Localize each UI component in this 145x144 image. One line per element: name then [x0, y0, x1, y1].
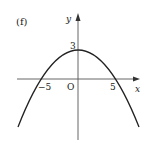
parabola-figure: (f) y 3 −5 O 5 x [0, 0, 145, 144]
y-axis-arrow-icon [76, 13, 81, 21]
x-tick-neg5: −5 [38, 82, 52, 92]
figure-label: (f) [16, 16, 28, 27]
origin-label: O [67, 82, 74, 92]
y-axis-label: y [65, 14, 72, 24]
y-intercept-label: 3 [70, 41, 76, 51]
x-axis-label: x [135, 84, 140, 94]
y-axis [76, 13, 81, 140]
x-axis [17, 77, 140, 82]
x-tick-5: 5 [110, 82, 116, 92]
x-axis-arrow-icon [133, 77, 140, 82]
parabola-curve [18, 50, 139, 127]
